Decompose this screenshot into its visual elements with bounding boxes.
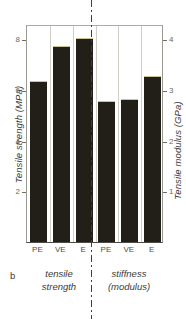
tick-mark-right-4 bbox=[163, 40, 167, 41]
gridline bbox=[118, 26, 119, 242]
tick-label-right-1: 1 bbox=[169, 187, 181, 196]
y-axis-right-title: Tensile modulus (GPa) bbox=[172, 76, 183, 226]
category-label-strength-pe: PE bbox=[26, 245, 49, 254]
group-caption-line: stiffness bbox=[96, 268, 162, 281]
category-label-strength-e: E bbox=[72, 245, 95, 254]
category-label-modulus-ve: VE bbox=[117, 245, 140, 254]
tick-mark-right-1 bbox=[163, 192, 167, 193]
plot-area bbox=[26, 25, 163, 243]
tick-label-left-2: 2 bbox=[8, 187, 20, 196]
tick-label-right-4: 4 bbox=[169, 35, 181, 44]
tick-label-left-6: 6 bbox=[8, 86, 20, 95]
category-label-modulus-pe: PE bbox=[95, 245, 118, 254]
group-caption-line: (modulus) bbox=[96, 281, 162, 294]
panel-letter: b bbox=[10, 270, 15, 281]
tick-mark-right-3 bbox=[163, 91, 167, 92]
caption-panel: b tensile strength stiffness (modulus) bbox=[0, 268, 186, 308]
tick-label-left-8: 8 bbox=[8, 35, 20, 44]
category-labels: PEVEEPEVEE bbox=[26, 245, 163, 259]
bar-stiffness-modulus--e bbox=[144, 76, 161, 242]
group-caption-stiffness-modulus: stiffness (modulus) bbox=[96, 268, 162, 293]
gridline bbox=[96, 26, 97, 242]
tick-label-right-2: 2 bbox=[169, 137, 181, 146]
bar-stiffness-modulus--pe bbox=[98, 101, 115, 242]
bar-tensile-strength-pe bbox=[30, 81, 47, 242]
gridline bbox=[50, 26, 51, 242]
bar-tensile-strength-ve bbox=[53, 46, 70, 242]
tick-mark-right-2 bbox=[163, 142, 167, 143]
category-label-modulus-e: E bbox=[140, 245, 163, 254]
bar-tensile-strength-e bbox=[76, 38, 93, 242]
chart-figure: Tensile strength (MPa) Tensile modulus (… bbox=[0, 0, 186, 319]
bar-stiffness-modulus--ve bbox=[121, 99, 138, 242]
group-caption-line: strength bbox=[30, 281, 88, 294]
group-caption-tensile-strength: tensile strength bbox=[30, 268, 88, 293]
tick-label-left-4: 4 bbox=[8, 137, 20, 146]
bars-layer bbox=[27, 26, 162, 242]
category-label-strength-ve: VE bbox=[49, 245, 72, 254]
tick-label-right-3: 3 bbox=[169, 86, 181, 95]
gridline bbox=[73, 26, 74, 242]
group-caption-line: tensile bbox=[30, 268, 88, 281]
gridline bbox=[141, 26, 142, 242]
